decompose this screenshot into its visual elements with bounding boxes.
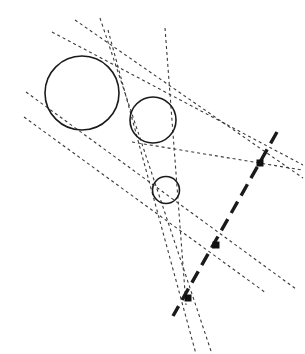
homothety-center-lower — [185, 295, 191, 301]
homothety-center-upper — [257, 160, 263, 166]
figure-background — [0, 0, 305, 354]
homothety-center-middle — [213, 242, 219, 248]
figure-canvas — [0, 0, 305, 354]
geometry-figure — [0, 0, 305, 354]
